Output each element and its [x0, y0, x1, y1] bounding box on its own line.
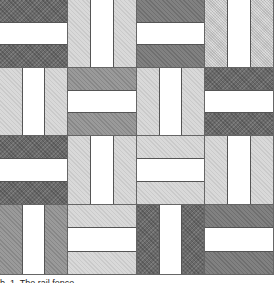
fabric-strip-meddark	[137, 0, 204, 23]
fabric-strip-white	[228, 0, 251, 67]
fabric-strip-dark	[0, 0, 67, 23]
quilt-block-r0-c2	[137, 0, 205, 68]
fabric-strip-dark	[205, 113, 273, 135]
fabric-strip-white	[91, 0, 114, 67]
fabric-strip-dark	[0, 182, 67, 204]
quilt-block-r3-c2	[137, 205, 205, 275]
fabric-strip-light	[137, 182, 204, 204]
fabric-strip-light	[68, 205, 136, 228]
fabric-strip-light	[68, 252, 136, 274]
fabric-strip-white	[160, 205, 183, 274]
quilt-block-r0-c1	[68, 0, 137, 68]
fabric-strip-light	[114, 136, 136, 204]
quilt-block-r0-c3	[205, 0, 274, 68]
fabric-strip-lightspeck	[205, 0, 228, 67]
fabric-strip-white	[137, 23, 204, 46]
quilt-block-r0-c0	[0, 0, 68, 68]
fabric-strip-white	[228, 136, 251, 204]
fabric-strip-white	[137, 159, 204, 182]
fabric-strip-dark	[182, 205, 204, 274]
quilt-block-r1-c1	[68, 68, 137, 136]
fabric-strip-meddark	[137, 45, 204, 67]
fabric-strip-white	[91, 136, 114, 204]
fabric-strip-light	[182, 68, 204, 135]
fabric-strip-light	[137, 136, 204, 159]
quilt-block-r1-c2	[137, 68, 205, 136]
figure-caption: b. 1. The rail fence	[0, 276, 274, 283]
quilt-block-r2-c1	[68, 136, 137, 205]
fabric-strip-white	[23, 205, 46, 274]
quilt-block-r3-c0	[0, 205, 68, 275]
fabric-strip-dark	[0, 45, 67, 67]
quilt-block-r2-c0	[0, 136, 68, 205]
fabric-strip-light	[68, 0, 91, 67]
fabric-strip-light	[251, 136, 273, 204]
fabric-strip-white	[205, 228, 273, 251]
quilt-block-r2-c3	[205, 136, 274, 205]
quilt-block-r1-c0	[0, 68, 68, 136]
quilt-block-r3-c1	[68, 205, 137, 275]
fabric-strip-dark	[137, 205, 160, 274]
fabric-strip-white	[68, 91, 136, 114]
quilt-block-r1-c3	[205, 68, 274, 136]
fabric-strip-medium	[45, 205, 67, 274]
fabric-strip-medium	[68, 68, 136, 91]
quilt-block-r2-c2	[137, 136, 205, 205]
fabric-strip-light	[205, 136, 228, 204]
fabric-strip-white	[23, 68, 46, 135]
fabric-strip-white	[0, 23, 67, 46]
fabric-strip-meddark	[205, 205, 273, 228]
fabric-strip-white	[160, 68, 183, 135]
fabric-strip-light	[68, 136, 91, 204]
fabric-strip-dark	[0, 136, 67, 159]
fabric-strip-dark	[205, 68, 273, 91]
fabric-strip-light	[45, 68, 67, 135]
fabric-strip-light	[114, 0, 136, 67]
fabric-strip-light	[0, 68, 23, 135]
fabric-strip-meddark	[205, 252, 273, 274]
fabric-strip-white	[0, 159, 67, 182]
fabric-strip-light	[137, 68, 160, 135]
quilt-block-r3-c3	[205, 205, 274, 275]
fabric-strip-lightspeck	[251, 0, 273, 67]
fabric-strip-medium	[0, 205, 23, 274]
fabric-strip-white	[68, 228, 136, 251]
fabric-strip-white	[205, 91, 273, 114]
fabric-strip-medium	[68, 113, 136, 135]
quilt-pattern	[0, 0, 274, 275]
